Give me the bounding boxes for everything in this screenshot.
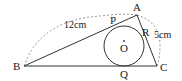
label-c: C — [160, 61, 167, 73]
measure-ab: 12cm — [64, 19, 86, 30]
label-q: Q — [120, 68, 128, 80]
measure-ac: 5cm — [154, 29, 171, 40]
label-b: B — [13, 60, 20, 72]
label-a: A — [133, 1, 141, 13]
label-r: R — [142, 26, 150, 38]
label-p: P — [110, 14, 116, 26]
label-o: O — [120, 42, 128, 54]
triangle-incircle-diagram: A B C O P Q R 12cm 5cm — [0, 0, 182, 81]
